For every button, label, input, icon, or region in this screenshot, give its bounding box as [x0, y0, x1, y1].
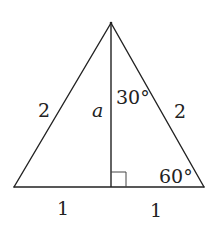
right-angle-marker	[111, 172, 126, 187]
right-base-label: 1	[150, 199, 162, 221]
left-side-label: 2	[38, 99, 50, 121]
triangle-diagram: 2 a 30° 2 60° 1 1	[0, 0, 207, 229]
left-base-label: 1	[57, 197, 69, 219]
top-angle-label: 30°	[116, 86, 150, 108]
altitude-label: a	[92, 99, 103, 121]
bottom-right-angle-label: 60°	[159, 165, 193, 187]
right-side-label: 2	[174, 100, 186, 122]
apex-point	[110, 22, 113, 25]
